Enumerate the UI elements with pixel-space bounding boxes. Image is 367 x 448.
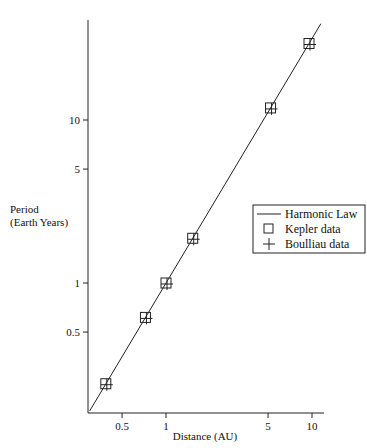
x-axis-title: Distance (AU) — [173, 430, 238, 443]
legend: Harmonic Law Kepler data Boulliau data — [253, 205, 365, 253]
y-tick-label: 10 — [69, 114, 81, 126]
x-tick-label: 0.5 — [115, 420, 129, 432]
x-tick-label: 5 — [265, 420, 271, 432]
y-tick-label: 0.5 — [66, 326, 80, 338]
legend-label-harmonic: Harmonic Law — [285, 207, 358, 221]
legend-label-boulliau: Boulliau data — [285, 237, 350, 251]
y-tick-label: 1 — [75, 277, 81, 289]
y-axis-ticks: 0.51510 — [66, 114, 88, 338]
y-axis-title-line2: (Earth Years) — [10, 216, 68, 229]
legend-label-kepler: Kepler data — [285, 222, 341, 236]
y-axis-title-line1: Period — [10, 203, 39, 215]
y-tick-label: 5 — [75, 163, 81, 175]
x-tick-label: 1 — [163, 420, 169, 432]
x-tick-label: 10 — [307, 420, 319, 432]
chart-canvas: 0.51510 0.51510 Distance (AU) Period (Ea… — [0, 0, 367, 448]
